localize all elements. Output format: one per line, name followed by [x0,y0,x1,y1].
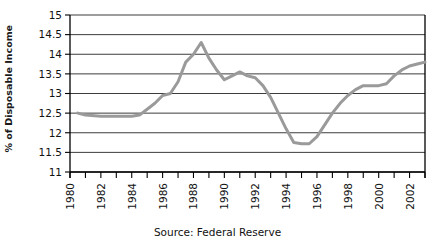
y-tick-label: 11 [49,166,62,178]
x-tick-group [70,172,425,178]
x-tick-label: 1992 [249,183,261,210]
source-caption: Source: Federal Reserve [0,226,435,238]
x-tick-label: 2002 [404,183,416,210]
x-tick-label: 1988 [187,183,199,210]
x-tick-label: 1980 [64,183,76,210]
y-tick-labels: 1111.51212.51313.51414.515 [39,9,63,178]
axis-lines [70,15,425,178]
y-tick-label: 14 [49,48,63,60]
x-tick-label: 1986 [157,183,169,210]
y-tick-label: 13.5 [39,68,62,80]
gridlines-group [70,15,425,172]
y-tick-label: 13 [49,87,62,99]
y-tick-label: 11.5 [39,146,62,158]
y-tick-label: 12.5 [39,107,62,119]
x-tick-label: 1998 [342,183,354,210]
y-tick-group [65,15,70,172]
x-tick-labels: 1980198219841986198819901992199419961998… [64,183,416,210]
x-tick-label: 1984 [126,183,138,210]
plot-area: 1111.51212.51313.51414.515 1980198219841… [0,0,435,226]
y-tick-label: 12 [49,127,62,139]
x-tick-label: 1990 [218,183,230,210]
x-tick-label: 1982 [95,183,107,210]
chart-figure: % of Disposable Income 1111.51212.51313.… [0,0,435,249]
x-tick-label: 1994 [280,183,292,210]
y-tick-label: 15 [49,9,62,21]
y-tick-label: 14.5 [39,28,62,40]
x-tick-label: 2000 [373,183,385,210]
x-tick-label: 1996 [311,183,323,210]
